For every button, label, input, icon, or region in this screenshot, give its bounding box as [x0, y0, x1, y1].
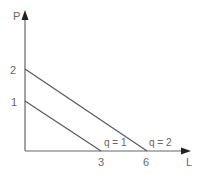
y-tick-1: 1: [11, 96, 17, 108]
line-q2: [25, 69, 147, 151]
line-q1: [25, 101, 101, 151]
x-tick-3: 3: [98, 156, 104, 168]
y-axis-label: P: [13, 10, 20, 22]
series-label-q2: q = 2: [149, 137, 172, 148]
y-tick-2: 2: [10, 64, 16, 76]
series-label-q1: q = 1: [104, 137, 127, 148]
x-tick-6: 6: [143, 156, 149, 168]
x-axis-label: L: [186, 156, 192, 168]
y-axis-arrow-icon: [22, 10, 29, 20]
x-axis-arrow-icon: [181, 148, 191, 155]
isoquant-chart: P L 2 1 3 6 q = 1 q = 2: [0, 0, 206, 175]
